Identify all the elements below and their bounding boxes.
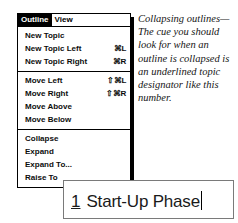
menu-item-label: Expand <box>25 145 54 158</box>
menu-item-move-above[interactable]: Move Above <box>18 100 130 113</box>
menu-item-label: Move Above <box>25 100 72 113</box>
menu-item-shortcut: ⇧⌘L <box>101 74 126 87</box>
menu-item-label: New Topic Left <box>25 42 81 55</box>
menu-item-label: Move Left <box>25 74 62 87</box>
menubar-item-view[interactable]: View <box>52 14 76 26</box>
menu-item-label: Raise To <box>25 171 58 184</box>
topic-title-value[interactable]: Start-Up Phase <box>86 192 199 212</box>
menu-item-new-topic[interactable]: New Topic <box>18 29 130 42</box>
menu-bar: Outline View <box>18 14 130 27</box>
menu-item-shortcut: ⇧⌘R <box>100 87 126 100</box>
menu-item-move-left[interactable]: Move Left ⇧⌘L <box>18 74 130 87</box>
menu-item-expand[interactable]: Expand <box>18 145 130 158</box>
menu-item-label: Move Right <box>25 87 68 100</box>
menu-item-new-topic-right[interactable]: New Topic Right ⌘R <box>18 55 130 68</box>
menu-item-label: Expand To... <box>25 158 72 171</box>
menu-item-move-right[interactable]: Move Right ⇧⌘R <box>18 87 130 100</box>
menu-item-expand-to[interactable]: Expand To... <box>18 158 130 171</box>
menu-group-new: New Topic New Topic Left ⌘L New Topic Ri… <box>18 27 130 71</box>
menu-item-label: New Topic <box>25 29 64 42</box>
menu-item-new-topic-left[interactable]: New Topic Left ⌘L <box>18 42 130 55</box>
menu-item-label: New Topic Right <box>25 55 87 68</box>
menu-item-label: Collapse <box>25 132 58 145</box>
menu-item-shortcut: ⌘L <box>108 42 126 55</box>
menu-item-shortcut: ⌘R <box>107 55 126 68</box>
menubar-item-outline[interactable]: Outline <box>18 14 52 26</box>
menu-group-collapse: Collapse Expand Expand To... Raise To <box>18 129 130 187</box>
annotation-text: Collapsing outlines—The cue you should l… <box>138 12 236 104</box>
manual-page-figure: Outline View New Topic New Topic Left ⌘L… <box>0 0 238 223</box>
topic-text-box[interactable]: 1 Start-Up Phase <box>63 180 234 219</box>
collapsed-topic-designator: 1 <box>71 192 80 212</box>
menu-drop-shadow <box>131 17 134 184</box>
text-cursor <box>201 191 202 210</box>
topic-text-box-content: 1 Start-Up Phase <box>71 188 202 212</box>
menu-item-move-below[interactable]: Move Below <box>18 113 130 126</box>
menu-group-move: Move Left ⇧⌘L Move Right ⇧⌘R Move Above … <box>18 71 130 129</box>
outline-menu[interactable]: Outline View New Topic New Topic Left ⌘L… <box>17 13 131 188</box>
menu-item-label: Move Below <box>25 113 71 126</box>
menu-item-collapse[interactable]: Collapse <box>18 132 130 145</box>
